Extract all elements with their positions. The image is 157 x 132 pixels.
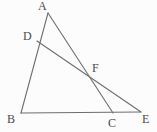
vertex-label-b: B bbox=[7, 113, 15, 125]
segment-A-B bbox=[21, 13, 48, 113]
vertex-label-c: C bbox=[108, 117, 116, 129]
segment-A-C bbox=[48, 13, 113, 113]
segments-group bbox=[21, 13, 141, 113]
vertex-label-e: E bbox=[142, 113, 149, 125]
segment-B-E bbox=[21, 112, 141, 113]
vertex-label-f: F bbox=[92, 62, 99, 74]
vertex-label-a: A bbox=[38, 0, 47, 12]
geometry-figure: ADFBCE bbox=[0, 0, 157, 132]
figure-canvas bbox=[0, 0, 157, 132]
segment-D-E bbox=[37, 41, 141, 112]
vertex-label-d: D bbox=[23, 30, 32, 42]
